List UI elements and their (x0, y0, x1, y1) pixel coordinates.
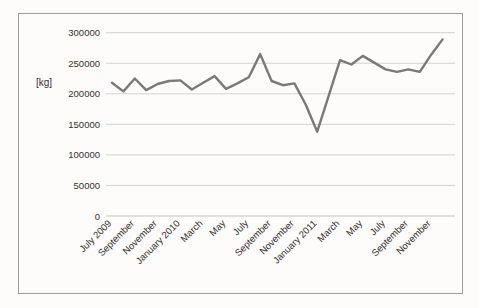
y-axis-unit-label: [kg] (36, 77, 52, 88)
chart-screenshot: 050000100000150000200000250000300000 [kg… (0, 0, 479, 308)
y-axis-tick-labels: 050000100000150000200000250000300000 (68, 27, 100, 221)
x-tick-label: March (178, 218, 204, 244)
y-tick-label: 150000 (68, 119, 100, 130)
y-tick-label: 50000 (74, 180, 100, 191)
y-tick-label: 200000 (68, 88, 100, 99)
y-tick-label: 100000 (68, 149, 100, 160)
y-tick-label: 250000 (68, 58, 100, 69)
x-tick-label: March (315, 218, 341, 244)
data-series-line (112, 39, 443, 131)
y-tick-label: 300000 (68, 27, 100, 38)
x-tick-label: May (344, 217, 365, 238)
x-axis-tick-labels: July 2009SeptemberNovemberJanuary 2010Ma… (77, 217, 433, 266)
line-chart: 050000100000150000200000250000300000 [kg… (0, 0, 479, 308)
y-tick-label: 0 (95, 211, 100, 222)
gridlines (106, 33, 455, 216)
x-tick-label: May (207, 217, 228, 238)
